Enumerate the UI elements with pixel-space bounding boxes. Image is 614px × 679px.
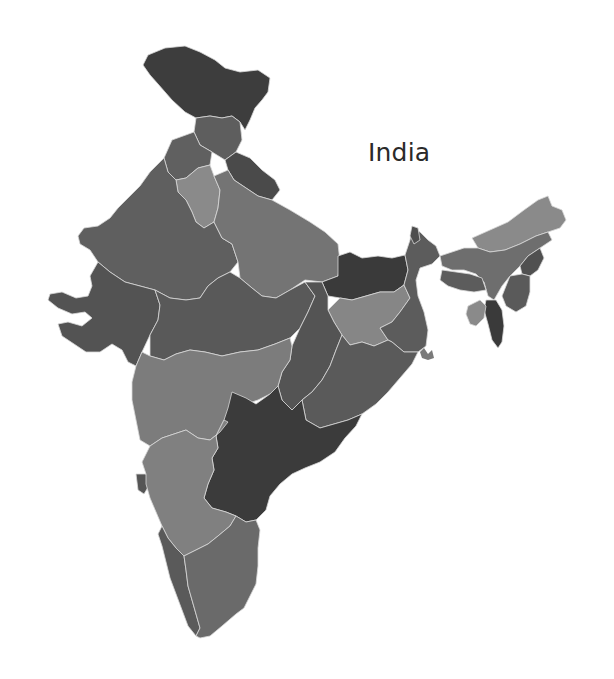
region-tripura[interactable] xyxy=(466,300,486,326)
region-arunachal-pradesh[interactable] xyxy=(472,196,566,252)
india-map xyxy=(0,0,614,679)
map-title: India xyxy=(368,138,430,167)
region-mizoram[interactable] xyxy=(484,300,504,348)
map-container: India xyxy=(0,0,614,679)
coastline-islands xyxy=(420,348,434,360)
